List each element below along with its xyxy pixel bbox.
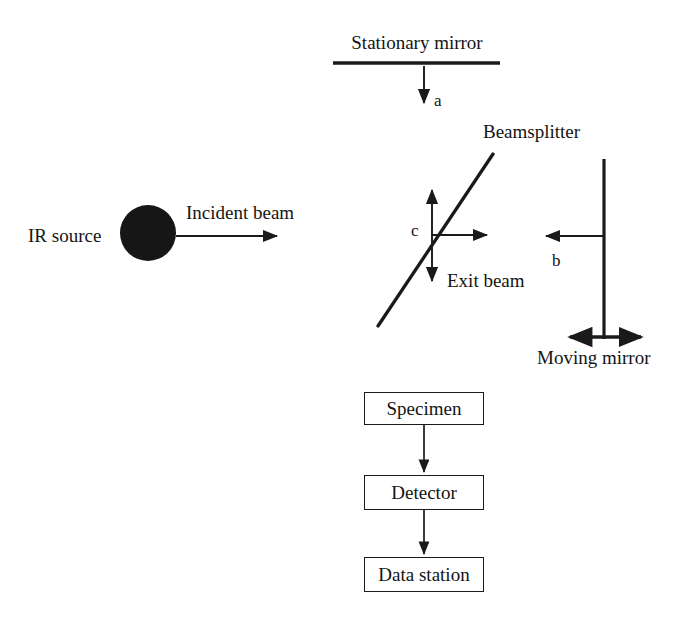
beamsplitter-label: Beamsplitter: [483, 122, 580, 141]
process-box-data-station: Data station: [364, 557, 484, 592]
process-box-specimen-label: Specimen: [387, 398, 462, 420]
process-box-detector: Detector: [364, 475, 484, 510]
exit-beam-label: Exit beam: [447, 271, 525, 290]
ir-source-circle: [120, 205, 176, 261]
incident-beam-label: Incident beam: [186, 203, 294, 222]
stationary-mirror-label: Stationary mirror: [351, 33, 482, 52]
beamsplitter-line: [378, 154, 493, 326]
beam-a-label: a: [434, 92, 442, 109]
process-box-data-station-label: Data station: [378, 564, 469, 586]
figure-canvas: Stationary mirror a Beamsplitter IR sour…: [0, 0, 698, 623]
point-c-label: c: [411, 222, 419, 239]
process-box-detector-label: Detector: [391, 482, 456, 504]
process-box-specimen: Specimen: [364, 392, 484, 425]
beam-b-label: b: [552, 252, 561, 269]
ir-source-label: IR source: [28, 226, 101, 245]
moving-mirror-label: Moving mirror: [537, 348, 650, 367]
diagram-svg: [0, 0, 698, 623]
